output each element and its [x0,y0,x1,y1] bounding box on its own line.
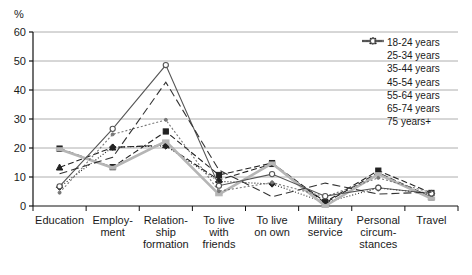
y-tick-label: 40 [0,84,26,96]
data-point-marker [110,126,115,131]
x-tick-label: Travel [395,214,467,226]
data-point-marker [375,173,381,176]
legend-item[interactable]: 75 years+ [362,115,440,128]
legend-item[interactable]: 35-44 years [362,62,440,75]
legend-label: 25-34 years [387,49,440,62]
data-point-marker [163,62,168,67]
legend-label: 75 years+ [387,115,431,128]
data-point-marker [109,166,115,169]
data-point-marker [56,148,62,151]
data-point-marker [271,181,274,184]
legend-label: 55-64 years [387,89,440,102]
data-point-marker [163,129,168,134]
data-point-marker [269,172,274,177]
data-point-marker [217,190,220,193]
legend-swatch-icon [362,117,384,127]
y-tick-label: 50 [0,55,26,67]
data-point-marker [322,205,328,208]
legend-label: 65-74 years [387,102,440,115]
data-point-marker [57,184,62,189]
chart-legend: 18-24 years25-34 years35-44 years45-54 y… [362,36,440,128]
data-point-marker [58,191,61,194]
legend-item[interactable]: 45-54 years [362,76,440,89]
y-tick-label: 30 [0,113,26,125]
legend-swatch-icon [362,77,384,87]
legend-swatch-icon [362,90,384,100]
data-point-marker [376,185,381,190]
data-point-marker [216,183,221,188]
legend-item[interactable]: 65-74 years [362,102,440,115]
y-tick-label: 20 [0,142,26,154]
data-point-marker [164,118,167,121]
legend-swatch-icon [362,64,384,74]
legend-swatch-icon [362,51,384,61]
legend-label: 18-24 years [387,36,440,49]
legend-label: 45-54 years [387,76,440,89]
data-point-marker [269,162,275,165]
series-line [60,120,432,197]
data-point-marker [377,176,380,179]
data-point-marker [163,140,169,143]
legend-item[interactable]: 55-64 years [362,89,440,102]
data-point-marker [428,197,434,200]
data-point-marker [111,133,114,136]
y-tick-label: 10 [0,171,26,183]
legend-item[interactable]: 25-34 years [362,49,440,62]
data-point-marker [216,193,222,196]
y-tick-label: 0 [0,200,26,212]
legend-label: 35-44 years [387,62,440,75]
legend-swatch-icon [362,104,384,114]
y-tick-label: 60 [0,26,26,38]
line-chart: % 6050403020100 EducationEmploy- mentRel… [0,0,472,275]
data-point-marker [323,194,328,199]
